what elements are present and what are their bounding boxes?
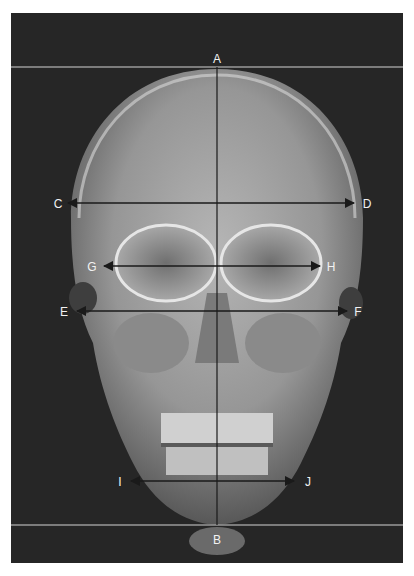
- label-b: B: [213, 534, 221, 546]
- label-a: A: [213, 53, 221, 65]
- label-d: D: [363, 198, 372, 210]
- label-e: E: [60, 306, 68, 318]
- label-h: H: [327, 261, 336, 273]
- label-c: C: [54, 198, 63, 210]
- xray-image: A B C D G H E F I J: [11, 13, 403, 563]
- label-g: G: [87, 261, 96, 273]
- skull-xray-illustration: [11, 13, 403, 563]
- label-f: F: [354, 306, 361, 318]
- label-i: I: [118, 476, 121, 488]
- label-j: J: [305, 476, 311, 488]
